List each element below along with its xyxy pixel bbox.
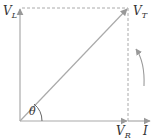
vt-vector [20, 9, 127, 121]
vl-label-sub: L [12, 11, 17, 20]
rotation-arrow-icon [136, 49, 144, 86]
vt-label-sub: T [142, 11, 147, 20]
current-label: I [143, 125, 148, 137]
phasor-diagram [0, 0, 161, 139]
vl-label-main: V [3, 4, 12, 18]
vr-label-sub: R [125, 131, 131, 139]
vr-label-main: V [116, 124, 125, 138]
vl-label: VL [3, 5, 17, 20]
vt-label: VT [133, 5, 147, 20]
vt-label-main: V [133, 4, 142, 18]
theta-label: θ [29, 106, 36, 117]
vr-label: VR [116, 125, 131, 139]
